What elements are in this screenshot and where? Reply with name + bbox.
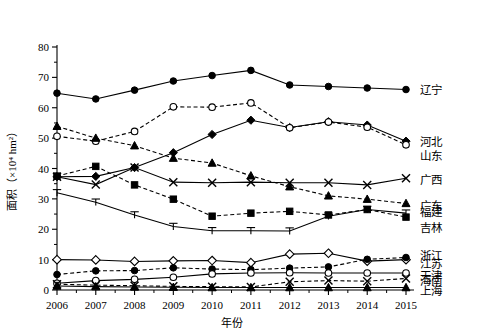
data-point [170,265,177,272]
data-point [403,254,410,261]
data-point [325,119,332,126]
series-辽宁 [54,67,410,102]
series-line [57,168,406,185]
x-tick-label: 2015 [395,299,418,311]
data-point [53,255,62,264]
data-point [169,257,178,266]
legend-label-江苏[interactable]: 江苏 [420,258,442,270]
data-point [92,134,100,141]
data-point [248,100,255,107]
data-point [209,104,216,111]
data-point [209,213,215,219]
data-point [325,270,332,277]
data-point [131,128,138,135]
y-tick-label: 10 [38,254,50,266]
data-point [324,249,333,258]
series-江苏 [54,254,410,278]
series-天津 [54,269,410,286]
y-tick-label: 80 [38,41,50,53]
data-point [53,190,61,197]
x-tick-label: 2010 [201,299,224,311]
x-tick-label: 2013 [317,299,340,311]
legend-label-河北[interactable]: 河北 [420,136,443,148]
axes [57,45,414,290]
data-point [402,199,410,206]
data-point [209,271,216,278]
series-广西 [53,164,410,189]
series-line [57,70,406,99]
data-point [325,212,331,218]
x-axis-title: 年份 [221,316,243,329]
legend-label-辽宁[interactable]: 辽宁 [420,83,442,96]
data-point [131,182,137,188]
data-point [92,172,100,180]
data-point [92,181,100,189]
data-point [285,250,294,259]
series-line [57,253,406,262]
y-tick-label: 60 [38,102,50,114]
y-tick-label: 20 [38,223,50,235]
data-point [170,274,177,281]
data-point [208,130,216,138]
y-tick-label: 30 [38,193,50,205]
data-point [92,268,99,275]
data-point [286,269,293,276]
data-point [93,163,99,169]
data-point [130,257,139,266]
data-point [248,210,254,216]
data-point [247,116,255,124]
data-point [92,199,100,206]
data-point [170,104,177,111]
y-axis-title: 面积（×10⁴ hm²） [6,126,18,211]
x-tick-label: 2008 [124,299,147,311]
data-point [208,159,216,166]
data-point [130,212,138,219]
data-point [364,124,371,131]
series-line [57,273,406,284]
y-tick-label: 0 [44,284,50,296]
legend-label-广西[interactable]: 广西 [420,174,442,186]
data-point [403,214,409,220]
series-line [57,166,406,217]
data-point [170,196,176,202]
line-chart: 0102030405060708020062007200820092010201… [0,0,493,336]
data-point [169,154,177,161]
data-point [131,87,138,94]
legend-label-山东[interactable]: 山东 [420,150,442,162]
data-point [91,256,100,265]
data-point [131,276,138,283]
y-tick-label: 40 [38,163,50,175]
data-point [247,172,255,179]
data-point [170,78,177,85]
data-point [131,267,138,274]
data-point [208,256,217,265]
data-point [54,133,61,140]
data-point [364,85,371,92]
legend-label-上海[interactable]: 上海 [420,284,443,297]
x-tick-label: 2009 [162,299,185,311]
data-point [54,271,61,278]
data-point [209,72,216,79]
legend-label-吉林[interactable]: 吉林 [420,221,443,234]
x-tick-label: 2012 [279,299,301,311]
data-point [248,270,255,277]
y-tick-label: 70 [38,71,50,83]
data-point [54,90,61,97]
x-tick-label: 2006 [46,299,69,311]
data-point [248,67,255,74]
legend: 辽宁河北山东广西广东福建吉林浙江江苏天津海南上海 [420,83,443,297]
data-point [364,206,370,212]
data-point [286,82,293,89]
series-福建 [53,190,410,235]
x-axis-ticks: 2006200720082009201020112012201320142015 [46,290,418,311]
data-point [403,142,410,149]
data-point [364,270,371,277]
series-浙江 [53,249,411,267]
data-point [286,124,293,131]
x-tick-label: 2014 [356,299,379,311]
data-point [364,256,371,263]
x-tick-label: 2007 [85,299,108,311]
legend-label-福建[interactable]: 福建 [420,205,443,218]
data-point [54,173,60,179]
series-line [57,120,406,176]
